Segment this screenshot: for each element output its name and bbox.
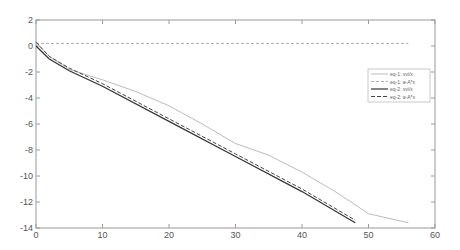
plot-frame (36, 20, 435, 228)
y-tick-label: 2 (28, 15, 33, 25)
legend-label: eq-2: xvi/x (390, 86, 413, 92)
axes: 010203040506020-2-4-6-8-10-12-14 (20, 15, 440, 240)
y-tick-label: -8 (25, 145, 33, 155)
x-tick-label: 30 (230, 230, 240, 240)
x-tick-label: 0 (33, 230, 38, 240)
legend-label: eq-1: xvi/x (390, 71, 413, 77)
x-tick-label: 10 (97, 230, 107, 240)
y-tick-label: -10 (20, 171, 33, 181)
y-tick-label: -14 (20, 223, 33, 233)
legend: eq-1: xvi/xeq-1: a-A*xeq-2: xvi/xeq-2: a… (368, 69, 430, 102)
series-line-2 (36, 46, 355, 223)
y-tick-label: -6 (25, 119, 33, 129)
x-tick-label: 50 (363, 230, 373, 240)
x-tick-label: 20 (164, 230, 174, 240)
x-tick-label: 40 (297, 230, 307, 240)
y-tick-label: -12 (20, 197, 33, 207)
line-chart: 010203040506020-2-4-6-8-10-12-14 eq-1: x… (0, 0, 460, 250)
plot-lines (36, 42, 408, 223)
y-tick-label: -2 (25, 67, 33, 77)
legend-label: eq-2: a-A*x (390, 94, 416, 100)
y-tick-label: 0 (28, 41, 33, 51)
series-line-3 (36, 42, 355, 220)
x-tick-label: 60 (430, 230, 440, 240)
y-tick-label: -4 (25, 93, 33, 103)
series-line-0 (36, 42, 408, 223)
legend-label: eq-1: a-A*x (390, 79, 416, 85)
